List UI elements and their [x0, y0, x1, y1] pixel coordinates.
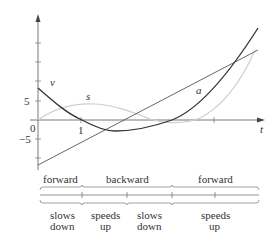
t-axis-arrow-icon	[257, 118, 265, 123]
t-tick-label-1: 1	[78, 124, 84, 136]
origin-label: 0	[30, 122, 36, 134]
v-label: v	[50, 76, 55, 88]
speed-label-2-line2: up	[100, 220, 112, 232]
direction-label-backward: backward	[106, 173, 149, 185]
time-line	[40, 192, 259, 198]
s-curve	[38, 50, 255, 123]
speed-brace	[40, 200, 259, 205]
t-axis-label: t	[260, 123, 264, 135]
direction-label-forward-1: forward	[43, 173, 78, 185]
speed-labels: slows down speeds up slows down speeds u…	[50, 209, 230, 232]
s-label: s	[86, 90, 90, 102]
direction-label-forward-2: forward	[198, 173, 233, 185]
y-tick-label-5: 5	[24, 95, 30, 107]
axes: 5 0 −5 1 t	[19, 14, 265, 170]
speed-label-4-line2: up	[209, 220, 221, 232]
v-curve	[38, 28, 258, 131]
speed-label-1-line2: down	[50, 220, 75, 232]
speed-label-3-line2: down	[137, 220, 162, 232]
a-line	[38, 50, 258, 165]
y-axis-arrow-icon	[36, 14, 41, 22]
direction-brace	[40, 185, 259, 190]
motion-diagram: 5 0 −5 1 t s a v forward backward forwar…	[0, 0, 273, 246]
y-tick-label-neg5: −5	[19, 133, 31, 145]
a-label: a	[196, 84, 202, 96]
